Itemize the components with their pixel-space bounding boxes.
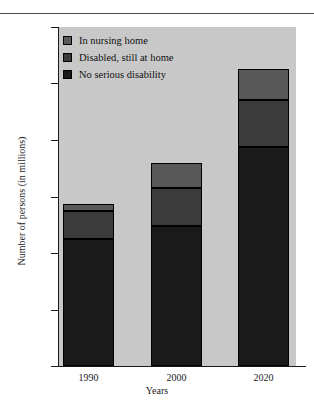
x-axis-tick-label: 2000 (147, 372, 207, 384)
bar-segment (151, 226, 202, 366)
bar-segment (151, 163, 202, 188)
bar-2020 (238, 27, 289, 366)
legend-item-label: In nursing home (79, 35, 148, 46)
y-axis-ticks: 0102030405060 (0, 0, 58, 406)
bar-segment (63, 204, 114, 211)
bar-segment (238, 100, 289, 147)
bar-segment (238, 147, 289, 366)
y-axis-tick (51, 253, 59, 254)
bar-segment (238, 69, 289, 100)
legend-swatch-icon (63, 53, 72, 62)
legend-item: No serious disability (63, 66, 233, 83)
bar-segment (151, 188, 202, 226)
legend-item-label: Disabled, still at home (79, 52, 174, 63)
y-axis-tick (51, 310, 59, 311)
legend-swatch-icon (63, 36, 72, 45)
y-axis-tick (51, 83, 59, 84)
y-axis-title: Number of persons (in millions) (17, 131, 27, 271)
legend-item-label: No serious disability (79, 69, 166, 80)
x-axis-tick-label: 2020 (234, 372, 294, 384)
legend-item: In nursing home (63, 32, 233, 49)
bar-segment (63, 239, 114, 366)
x-axis-tick-label: 1990 (59, 372, 119, 384)
bar-segment (63, 211, 114, 239)
y-axis-tick (51, 27, 59, 28)
x-axis-line (58, 366, 306, 367)
y-axis-tick (51, 140, 59, 141)
x-axis-title: Years (0, 385, 314, 397)
chart-legend: In nursing homeDisabled, still at homeNo… (63, 32, 233, 83)
y-axis-tick (51, 197, 59, 198)
legend-swatch-icon (63, 70, 72, 79)
legend-item: Disabled, still at home (63, 49, 233, 66)
stacked-bar-chart-figure: 0102030405060 Number of persons (in mill… (0, 0, 314, 406)
